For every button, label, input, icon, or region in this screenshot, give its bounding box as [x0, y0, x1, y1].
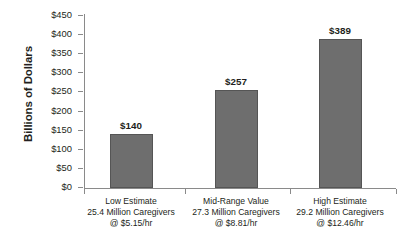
y-axis-tick-mark — [78, 130, 83, 131]
category-label-line: 29.2 Million Caregivers — [284, 207, 396, 218]
category-label-line: 27.3 Million Caregivers — [180, 207, 292, 218]
bar — [110, 134, 153, 188]
y-axis-tick-label: $200 — [0, 105, 72, 116]
bar-value-label: $389 — [310, 25, 370, 36]
bar — [215, 90, 258, 188]
y-axis-line — [84, 14, 85, 189]
bar-value-label: $140 — [101, 120, 161, 131]
x-axis-tick-mark — [396, 189, 397, 194]
y-axis-tick-label: $450 — [0, 9, 72, 20]
y-axis-tick-mark — [78, 187, 83, 188]
y-axis-tick-label: $100 — [0, 143, 72, 154]
y-axis-tick-mark — [78, 111, 83, 112]
y-axis-tick-mark — [78, 149, 83, 150]
category-label-line: @ $12.46/hr — [284, 218, 396, 229]
category-label-line: 25.4 Million Caregivers — [75, 207, 187, 218]
y-axis-tick-mark — [78, 168, 83, 169]
y-axis-tick-label: $400 — [0, 28, 72, 39]
bar-chart: Billions of Dollars $0$50$100$150$200$25… — [0, 0, 416, 243]
category-label-line: @ $8.81/hr — [180, 218, 292, 229]
y-axis-tick-mark — [78, 34, 83, 35]
y-axis-tick-label: $0 — [0, 181, 72, 192]
x-axis-line — [84, 188, 396, 189]
category-label: Low Estimate25.4 Million Caregivers@ $5.… — [75, 196, 187, 229]
y-axis-tick-label: $250 — [0, 85, 72, 96]
y-axis-tick-label: $300 — [0, 66, 72, 77]
x-axis-tick-mark — [185, 189, 186, 194]
y-axis-tick-label: $150 — [0, 124, 72, 135]
y-axis-tick-mark — [78, 91, 83, 92]
y-axis-tick-mark — [78, 53, 83, 54]
x-axis-tick-mark — [84, 189, 85, 194]
x-axis-tick-mark — [290, 189, 291, 194]
category-label-line: Mid-Range Value — [180, 196, 292, 207]
y-axis-tick-mark — [78, 15, 83, 16]
category-label: High Estimate29.2 Million Caregivers@ $1… — [284, 196, 396, 229]
bar-value-label: $257 — [206, 76, 266, 87]
y-axis-tick-label: $50 — [0, 162, 72, 173]
category-label-line: High Estimate — [284, 196, 396, 207]
category-label: Mid-Range Value27.3 Million Caregivers@ … — [180, 196, 292, 229]
category-label-line: Low Estimate — [75, 196, 187, 207]
category-label-line: @ $5.15/hr — [75, 218, 187, 229]
y-axis-tick-mark — [78, 72, 83, 73]
y-axis-tick-label: $350 — [0, 47, 72, 58]
bar — [319, 39, 362, 188]
